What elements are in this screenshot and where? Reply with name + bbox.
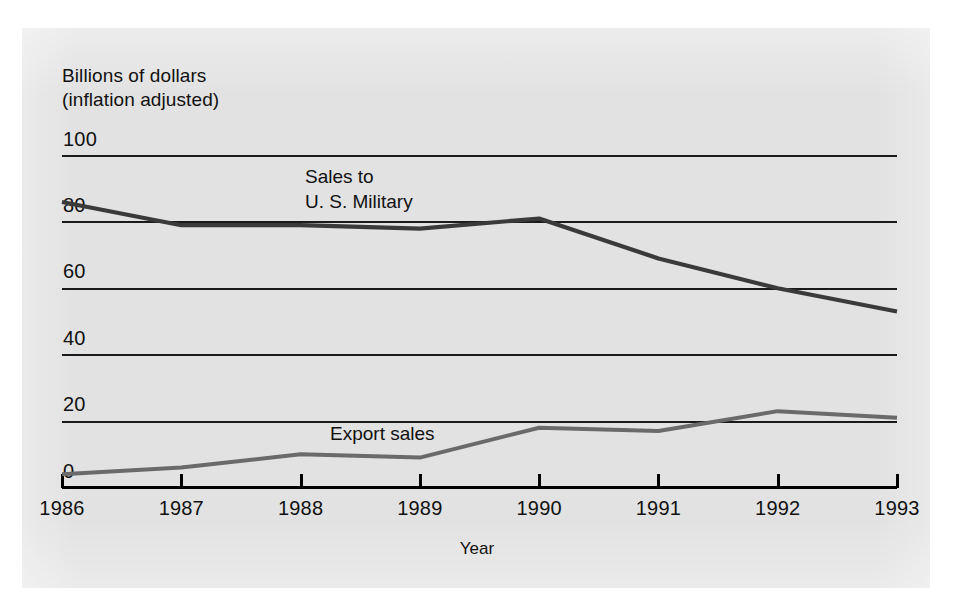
chart-root: Billions of dollars (inflation adjusted)… [0, 0, 954, 611]
series-label-export: Export sales [330, 421, 435, 446]
series-lines [62, 202, 897, 474]
x-axis-ticks [63, 474, 898, 488]
plot-area [0, 0, 954, 611]
x-axis-title: Year [460, 539, 494, 559]
series-label-military: Sales to U. S. Military [305, 164, 413, 214]
